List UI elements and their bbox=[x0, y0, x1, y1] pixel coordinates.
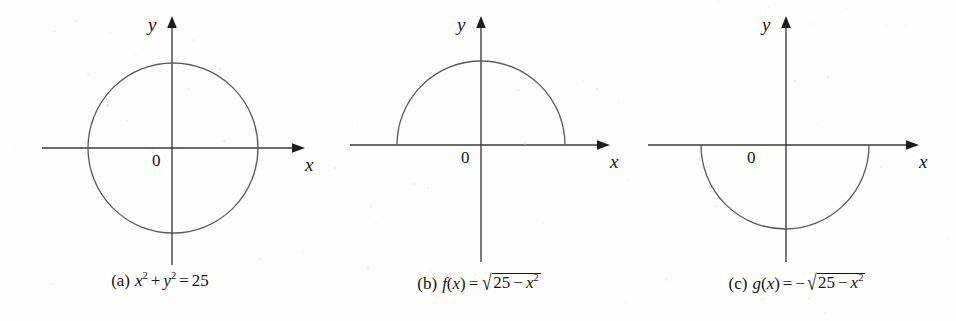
lower-semicircle-curve bbox=[701, 145, 869, 229]
eq-a-x-exponent: 2 bbox=[143, 270, 148, 281]
caption-a-tag: (a) bbox=[111, 271, 130, 290]
caption-c-tag: (c) bbox=[729, 274, 748, 293]
eq-b-minus: − bbox=[513, 273, 523, 292]
eq-b-equals: = bbox=[469, 274, 479, 293]
x-axis-arrow-a bbox=[292, 143, 305, 153]
radical-sign-icon-c: √ bbox=[807, 273, 816, 295]
y-axis-arrow-a bbox=[167, 16, 177, 28]
caption-c: (c)g(x)=−√25−x2 bbox=[638, 272, 956, 294]
eq-c-radicand: 25−x2 bbox=[817, 273, 865, 293]
x-axis-label-c: x bbox=[919, 152, 927, 171]
eq-c-num: 25 bbox=[818, 273, 835, 292]
eq-c-leading-sign: − bbox=[795, 274, 805, 293]
eq-b-num: 25 bbox=[493, 273, 510, 292]
eq-a-equals: = bbox=[179, 271, 189, 290]
x-axis-arrow-c bbox=[906, 140, 919, 150]
eq-c-equals: = bbox=[783, 274, 793, 293]
panel-circle: y x 0 (a)x2+y2=25 bbox=[0, 0, 320, 321]
panel-lower-semicircle: y x 0 (c)g(x)=−√25−x2 bbox=[638, 0, 956, 321]
eq-a-x: x bbox=[135, 271, 143, 290]
eq-b-arg: x bbox=[453, 274, 461, 293]
eq-a-y: y bbox=[163, 271, 171, 290]
y-axis-label-b: y bbox=[457, 15, 465, 34]
y-axis-label-a: y bbox=[148, 15, 156, 34]
y-axis-arrow-b bbox=[476, 16, 486, 28]
eq-b-radical: √25−x2 bbox=[481, 272, 540, 294]
radical-sign-icon-b: √ bbox=[483, 273, 492, 295]
y-axis-arrow-c bbox=[781, 16, 791, 28]
caption-a: (a)x2+y2=25 bbox=[0, 272, 320, 291]
caption-b: (b)f(x)=√25−x2 bbox=[320, 272, 638, 294]
caption-b-equation: f(x)=√25−x2 bbox=[442, 274, 541, 293]
eq-c-paren-close: ) bbox=[774, 274, 780, 293]
eq-b-radicand: 25−x2 bbox=[492, 273, 540, 293]
eq-c-var: x bbox=[851, 273, 859, 292]
eq-a-plus: + bbox=[151, 271, 161, 290]
panel-b-graphic: y x 0 bbox=[320, 0, 638, 262]
x-axis-label-b: x bbox=[610, 152, 618, 171]
caption-c-equation: g(x)=−√25−x2 bbox=[752, 274, 865, 293]
origin-label-c: 0 bbox=[747, 149, 756, 166]
panel-c-graphic: y x 0 bbox=[638, 0, 956, 262]
caption-b-tag: (b) bbox=[417, 274, 437, 293]
panel-upper-semicircle: y x 0 (b)f(x)=√25−x2 bbox=[320, 0, 638, 321]
panel-a-graphic: y x 0 bbox=[0, 0, 320, 262]
eq-a-rhs: 25 bbox=[192, 271, 209, 290]
figure-root: y x 0 (a)x2+y2=25 y x 0 (b)f(x)=√25−x2 bbox=[0, 0, 956, 321]
eq-c-exponent: 2 bbox=[858, 272, 863, 283]
origin-label-b: 0 bbox=[461, 149, 470, 166]
x-axis-label-a: x bbox=[305, 155, 313, 174]
y-axis-label-c: y bbox=[762, 15, 770, 34]
eq-b-exponent: 2 bbox=[533, 272, 538, 283]
eq-c-minus: − bbox=[838, 273, 848, 292]
eq-c-radical: √25−x2 bbox=[806, 272, 865, 294]
x-axis-arrow-b bbox=[597, 140, 610, 150]
caption-a-equation: x2+y2=25 bbox=[135, 271, 209, 290]
eq-c-func: g bbox=[752, 274, 761, 293]
eq-b-paren-close: ) bbox=[460, 274, 466, 293]
eq-a-y-exponent: 2 bbox=[171, 270, 176, 281]
origin-label-a: 0 bbox=[152, 152, 161, 169]
